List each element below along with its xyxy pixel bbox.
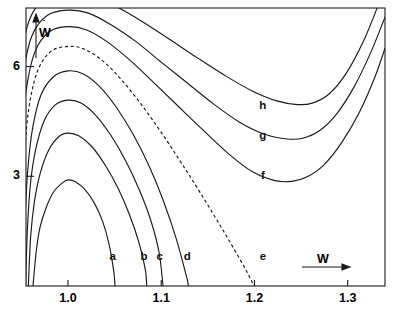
chart-plot: abcdefgh: [0, 0, 406, 312]
curve-e: [21, 46, 254, 286]
x-tick-label: 1.3: [334, 291, 362, 305]
curve-d: [23, 71, 188, 286]
curve-label-f: f: [261, 169, 265, 181]
curve-label-a: a: [110, 250, 117, 262]
y-tick-label: 6: [4, 59, 20, 73]
curve-group: [15, 0, 385, 286]
curve-label-b: b: [140, 250, 147, 262]
curve-h: [15, 0, 385, 286]
y-axis-overdot: ˙: [42, 19, 46, 30]
curve-label-d: d: [184, 250, 191, 262]
x-axis-title-text: W: [317, 252, 329, 266]
figure-container: abcdefgh ˙ W W 1.01.11.21.3 36: [0, 0, 406, 312]
y-axis-title: ˙ W: [39, 24, 51, 40]
curve-g: [17, 10, 385, 286]
y-tick-label: 3: [4, 168, 20, 182]
x-axis-ticks: [68, 280, 348, 286]
plot-frame: [26, 8, 385, 286]
x-tick-label: 1.0: [54, 291, 82, 305]
curve-label-group: abcdefgh: [110, 99, 267, 262]
x-axis-title: W: [317, 250, 329, 266]
curve-label-c: c: [157, 250, 164, 262]
curve-label-g: g: [259, 129, 266, 141]
x-tick-label: 1.2: [240, 291, 268, 305]
curve-b: [28, 133, 146, 286]
x-tick-label: 1.1: [147, 291, 175, 305]
curve-label-e: e: [260, 250, 266, 262]
curve-f: [19, 27, 385, 286]
curve-a: [33, 180, 115, 286]
curve-label-h: h: [259, 99, 266, 111]
